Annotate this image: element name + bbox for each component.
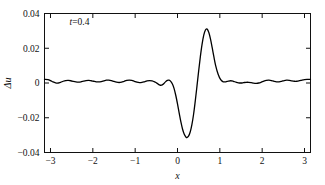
y-tick-label: 0.04 — [23, 9, 40, 19]
x-tick-label: 1 — [217, 156, 222, 166]
x-tick-label: 3 — [302, 156, 307, 166]
x-tick-label: 2 — [260, 156, 265, 166]
x-tick-label: 0 — [175, 156, 180, 166]
y-tick-label: −0.04 — [18, 148, 40, 158]
line-chart: −3−2−10123 −0.04−0.0200.020.04 t=0.4 x Δ… — [0, 0, 325, 185]
x-tick-label: −1 — [130, 156, 140, 166]
y-axis-label: Δu — [2, 78, 13, 90]
x-tick-label: −2 — [88, 156, 98, 166]
y-tick-label: 0.02 — [23, 44, 40, 54]
annotation-group: t=0.4 — [70, 17, 90, 27]
x-axis-label: x — [174, 170, 180, 181]
x-tick-label: −3 — [45, 156, 55, 166]
figure-container: −3−2−10123 −0.04−0.0200.020.04 t=0.4 x Δ… — [0, 0, 325, 185]
y-tick-label: −0.02 — [18, 113, 40, 123]
annotation-time: t=0.4 — [70, 17, 90, 27]
y-tick-label: 0 — [35, 78, 40, 88]
